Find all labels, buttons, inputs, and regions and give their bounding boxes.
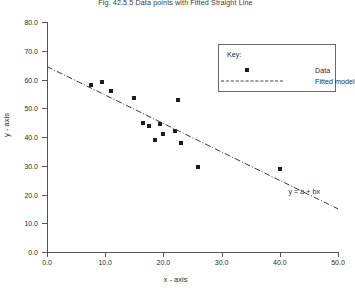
legend-entry-label: Data (315, 65, 330, 74)
x-tick-label: 0.0 (42, 259, 52, 266)
legend-box: Key: Data Fitted model (218, 44, 336, 92)
y-tick: 30.0 (42, 166, 47, 167)
y-tick-label: 0.0 (28, 249, 38, 256)
data-point (161, 132, 165, 136)
x-tick-label: 50.0 (331, 259, 345, 266)
y-tick-label: 60.0 (24, 76, 38, 83)
x-tick: 30.0 (222, 252, 223, 257)
legend-entry-data: Data (219, 64, 335, 75)
y-tick-label: 70.0 (24, 47, 38, 54)
dash-dot-line-icon (245, 80, 283, 81)
square-marker-icon (245, 68, 249, 72)
legend-entry-fitted-model: Fitted model (219, 75, 335, 86)
y-tick: 60.0 (42, 80, 47, 81)
y-tick: 40.0 (42, 137, 47, 138)
y-tick: 10.0 (42, 223, 47, 224)
chart-title: Fig. 42.5.5 Data points with Fitted Stra… (0, 0, 351, 7)
x-tick: 20.0 (163, 252, 164, 257)
legend-title: Key: (227, 50, 241, 59)
x-tick-label: 30.0 (215, 259, 229, 266)
data-point (109, 89, 113, 93)
data-point (196, 165, 200, 169)
y-tick-label: 80.0 (24, 19, 38, 26)
data-point (153, 138, 157, 142)
data-point (147, 124, 151, 128)
data-point (132, 96, 136, 100)
x-tick-label: 10.0 (98, 259, 112, 266)
legend-entry-label: Fitted model (315, 76, 355, 85)
data-point (141, 121, 145, 125)
data-point (89, 83, 93, 87)
equation-annotation: y = a + bx (289, 187, 321, 196)
x-tick-label: 40.0 (273, 259, 287, 266)
data-point (100, 80, 104, 84)
x-axis-line (47, 252, 339, 253)
x-tick: 10.0 (105, 252, 106, 257)
x-tick-label: 20.0 (157, 259, 171, 266)
x-axis-label: x - axis (0, 275, 351, 284)
data-point (278, 167, 282, 171)
y-tick-label: 20.0 (24, 191, 38, 198)
data-point (179, 141, 183, 145)
y-tick: 80.0 (42, 22, 47, 23)
x-tick: 40.0 (280, 252, 281, 257)
data-point (158, 122, 162, 126)
data-point (173, 129, 177, 133)
y-tick-label: 10.0 (24, 220, 38, 227)
y-tick: 20.0 (42, 195, 47, 196)
x-tick: 50.0 (338, 252, 339, 257)
data-point (176, 98, 180, 102)
y-tick: 50.0 (42, 108, 47, 109)
y-tick: 70.0 (42, 51, 47, 52)
y-tick-label: 30.0 (24, 162, 38, 169)
x-tick: 0.0 (47, 252, 48, 257)
y-axis-label: y - axis (2, 113, 11, 137)
y-tick-label: 50.0 (24, 105, 38, 112)
y-tick-label: 40.0 (24, 134, 38, 141)
